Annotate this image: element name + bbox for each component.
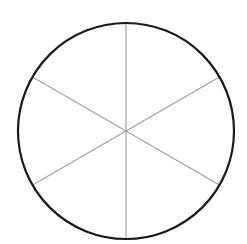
sector-dividers [33,23,220,239]
sectioned-circle-diagram [0,0,247,244]
